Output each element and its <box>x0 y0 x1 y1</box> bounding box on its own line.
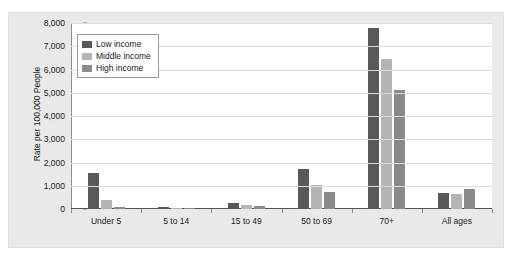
x-axis-tick-labels: Under 55 to 1415 to 4950 to 6970+All age… <box>71 216 492 226</box>
legend-item-label: Low income <box>96 39 141 49</box>
x-axis-tick-mark <box>352 209 353 213</box>
y-axis-tick-label: 4,000 <box>44 111 65 121</box>
legend-swatch-icon <box>82 65 92 72</box>
y-axis-tick-label: 7,000 <box>44 41 65 51</box>
x-axis-tick-label: 15 to 49 <box>211 216 281 226</box>
bar <box>88 173 99 209</box>
legend-swatch-icon <box>82 41 92 48</box>
legend-swatch-icon <box>82 53 92 60</box>
bar <box>438 193 449 209</box>
gridline <box>71 23 492 24</box>
gridline <box>71 116 492 117</box>
bar <box>324 192 335 209</box>
x-axis-tick-marks <box>71 209 492 214</box>
y-axis-tick-label: 3,000 <box>44 134 65 144</box>
x-axis-tick-label: Under 5 <box>71 216 141 226</box>
y-axis-tick-label: 0 <box>60 204 65 214</box>
cropped-title-remnant <box>0 0 511 9</box>
x-axis-tick-label: All ages <box>422 216 492 226</box>
bar <box>451 194 462 209</box>
chart-panel: Rate per 100,000 People 01,0002,0003,000… <box>8 12 504 248</box>
gridline <box>71 139 492 140</box>
bar <box>311 185 322 209</box>
gridline <box>71 186 492 187</box>
chart-figure: Rate per 100,000 People 01,0002,0003,000… <box>0 0 511 258</box>
bar <box>394 90 405 209</box>
y-axis-tick-label: 2,000 <box>44 158 65 168</box>
bar <box>464 189 475 209</box>
legend-item: High income <box>82 62 151 74</box>
y-axis-tick-label: 1,000 <box>44 181 65 191</box>
x-axis-tick-label: 50 to 69 <box>282 216 352 226</box>
x-axis-tick-mark <box>282 209 283 213</box>
x-axis-tick-mark <box>492 209 493 213</box>
gridline <box>71 93 492 94</box>
bar <box>298 169 309 209</box>
bar <box>101 200 112 209</box>
y-axis-tick-label: 6,000 <box>44 65 65 75</box>
x-axis-tick-mark <box>141 209 142 213</box>
legend-item: Low income <box>82 38 151 50</box>
y-axis-tick-label: 8,000 <box>44 18 65 28</box>
y-axis-tick-labels: 01,0002,0003,0004,0005,0006,0007,0008,00… <box>25 23 65 209</box>
gridline <box>71 163 492 164</box>
legend-item-label: High income <box>96 63 143 73</box>
x-axis-tick-mark <box>211 209 212 213</box>
x-axis-tick-mark <box>422 209 423 213</box>
bar <box>368 28 379 209</box>
x-axis-tick-label: 5 to 14 <box>141 216 211 226</box>
legend-item: Middle income <box>82 50 151 62</box>
legend: Low incomeMiddle incomeHigh income <box>77 34 159 78</box>
x-axis-tick-label: 70+ <box>352 216 422 226</box>
y-axis-tick-label: 5,000 <box>44 88 65 98</box>
x-axis-tick-mark <box>71 209 72 213</box>
legend-item-label: Middle income <box>96 51 151 61</box>
